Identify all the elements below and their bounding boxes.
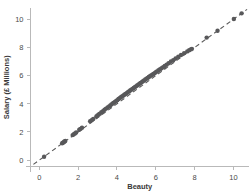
x-tick-label: 10 bbox=[229, 173, 237, 182]
data-point bbox=[42, 155, 46, 159]
plot-canvas: 02468100246810BeautySalary (£ Millions) bbox=[0, 0, 251, 193]
x-tick-label: 8 bbox=[193, 173, 197, 182]
scatter-plot-figure: 02468100246810BeautySalary (£ Millions) bbox=[0, 0, 251, 193]
y-tick-label: 6 bbox=[19, 71, 23, 80]
x-tick-label: 2 bbox=[76, 173, 80, 182]
data-point bbox=[190, 47, 194, 51]
x-tick-label: 4 bbox=[115, 173, 119, 182]
y-tick-label: 8 bbox=[19, 43, 23, 52]
y-tick-label: 0 bbox=[19, 156, 23, 165]
y-tick-label: 2 bbox=[19, 128, 23, 137]
x-axis-title: Beauty bbox=[127, 182, 153, 191]
data-point bbox=[80, 126, 84, 130]
x-tick-label: 0 bbox=[37, 173, 41, 182]
y-tick-label: 4 bbox=[19, 100, 23, 109]
x-tick-label: 6 bbox=[154, 173, 158, 182]
y-tick-label: 10 bbox=[15, 15, 23, 24]
data-point bbox=[215, 29, 219, 33]
data-point bbox=[204, 35, 208, 39]
data-point bbox=[232, 17, 236, 21]
data-point bbox=[239, 11, 243, 15]
data-point bbox=[63, 139, 67, 143]
y-axis-title: Salary (£ Millions) bbox=[2, 55, 11, 119]
